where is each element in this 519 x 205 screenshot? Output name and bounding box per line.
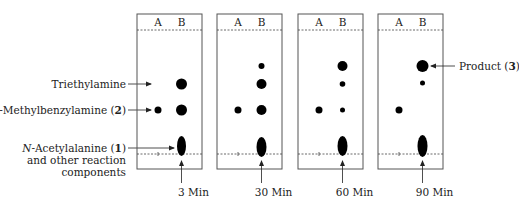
right-labels: Product (3) bbox=[431, 60, 519, 72]
tlc-plate-3: AB60 Min bbox=[298, 14, 374, 198]
spot-lane-a bbox=[316, 107, 323, 114]
lane-label-a: A bbox=[233, 16, 242, 28]
spot-lane-b bbox=[259, 63, 265, 69]
spot-lane-b bbox=[418, 135, 428, 157]
time-label: 3 Min bbox=[178, 186, 209, 198]
lane-label-b: B bbox=[339, 16, 347, 28]
spot-lane-b bbox=[417, 60, 429, 72]
label-triethylamine: Triethylamine bbox=[52, 78, 126, 90]
spot-lane-b bbox=[257, 79, 267, 89]
spot-lane-b bbox=[257, 105, 267, 115]
tlc-plate-4: AB90 Min bbox=[378, 14, 454, 198]
spot-lane-b bbox=[176, 105, 187, 116]
label-product: Product (3) bbox=[459, 60, 519, 72]
lane-label-a: A bbox=[314, 16, 323, 28]
label-methylbenzylamine: N-Methylbenzylamine (2) bbox=[0, 104, 126, 116]
plate-border bbox=[137, 14, 202, 169]
spot-lane-b bbox=[257, 137, 267, 157]
plate-border bbox=[217, 14, 282, 169]
spot-lane-a bbox=[396, 107, 403, 114]
label-acetylalanine-line2: and other reaction bbox=[27, 154, 126, 166]
spot-lane-b bbox=[420, 81, 425, 86]
label-acetylalanine: N-Acetylalanine (1) bbox=[21, 142, 126, 154]
time-label: 90 Min bbox=[416, 186, 454, 198]
spot-lane-b bbox=[176, 79, 187, 90]
spot-lane-b bbox=[177, 136, 186, 156]
lane-label-b: B bbox=[178, 16, 186, 28]
spot-lane-b bbox=[340, 81, 346, 87]
spot-lane-a bbox=[235, 107, 242, 114]
tlc-plate-1: AB3 Min bbox=[137, 14, 209, 198]
tlc-plate-2: AB30 Min bbox=[217, 14, 293, 198]
lane-label-b: B bbox=[419, 16, 427, 28]
left-labels: Triethylamine N-Methylbenzylamine (2) N-… bbox=[0, 78, 174, 178]
lane-label-a: A bbox=[153, 16, 162, 28]
spot-lane-b bbox=[338, 61, 348, 71]
spot-lane-b bbox=[340, 108, 345, 113]
lane-label-a: A bbox=[394, 16, 403, 28]
lane-label-b: B bbox=[258, 16, 266, 28]
tlc-plates: AB3 MinAB30 MinAB60 MinAB90 Min bbox=[137, 14, 454, 198]
label-acetylalanine-line3: components bbox=[61, 166, 126, 178]
plate-border bbox=[378, 14, 443, 169]
spot-lane-b bbox=[338, 136, 348, 156]
plate-border bbox=[298, 14, 363, 169]
tlc-diagram: Triethylamine N-Methylbenzylamine (2) N-… bbox=[0, 0, 519, 205]
time-label: 60 Min bbox=[336, 186, 374, 198]
spot-lane-a bbox=[155, 107, 162, 114]
time-label: 30 Min bbox=[255, 186, 293, 198]
